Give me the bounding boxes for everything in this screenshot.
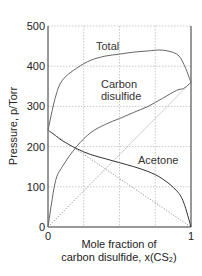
x-tick-label: 0 bbox=[45, 230, 51, 242]
annotation-total: Total bbox=[96, 40, 119, 52]
vapor-pressure-chart: 0100200300400500 01 Pressure, p/Torr Mol… bbox=[0, 0, 202, 276]
gridlines bbox=[48, 26, 191, 227]
y-tick-label: 100 bbox=[27, 181, 45, 193]
y-tick-labels: 0100200300400500 bbox=[27, 20, 45, 233]
x-axis-label-line1: Mole fraction of bbox=[81, 238, 157, 250]
y-tick-label: 500 bbox=[27, 20, 45, 32]
x-tick-label: 1 bbox=[188, 230, 194, 242]
annotation-carbon: Carbon bbox=[101, 78, 137, 90]
y-tick-label: 400 bbox=[27, 60, 45, 72]
y-axis-label: Pressure, p/Torr bbox=[7, 87, 19, 166]
annotation-disulfide: disulfide bbox=[101, 90, 141, 102]
annotation-acetone: Acetone bbox=[138, 154, 178, 166]
y-tick-label: 300 bbox=[27, 100, 45, 112]
y-tick-label: 200 bbox=[27, 141, 45, 153]
x-axis-label-line2: carbon disulfide, x(CS₂) bbox=[61, 251, 177, 263]
